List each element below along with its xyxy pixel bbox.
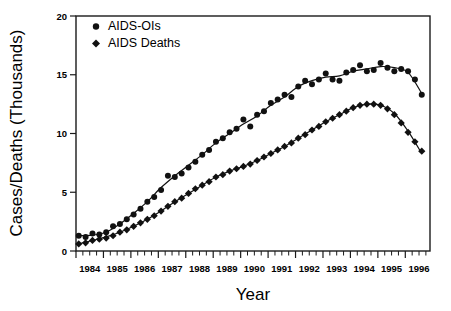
- data-point-circle: [302, 78, 308, 84]
- y-tick-label: 10: [56, 128, 67, 139]
- x-tick-label: 1989: [216, 263, 237, 274]
- x-tick-label: 1986: [134, 263, 155, 274]
- data-point-diamond: [267, 150, 274, 157]
- x-tick-label: 1985: [107, 263, 129, 274]
- data-point-circle: [391, 68, 397, 74]
- data-point-circle: [186, 165, 192, 171]
- data-point-circle: [323, 71, 329, 77]
- data-point-diamond: [89, 237, 96, 244]
- y-axis-ticks: [70, 16, 76, 251]
- data-point-circle: [83, 234, 89, 240]
- data-point-diamond: [219, 171, 226, 178]
- x-axis-minor-ticks: [76, 251, 426, 258]
- x-tick-label: 1984: [79, 263, 101, 274]
- data-point-diamond: [116, 229, 123, 236]
- data-point-circle: [288, 94, 294, 100]
- data-point-circle: [206, 147, 212, 153]
- data-point-diamond: [233, 165, 240, 172]
- data-point-circle: [240, 116, 246, 122]
- data-point-circle: [378, 60, 384, 66]
- x-tick-label: 1987: [161, 263, 182, 274]
- y-axis-tick-labels: 05101520: [56, 11, 67, 257]
- legend-marker-diamond: [92, 40, 100, 48]
- y-tick-label: 20: [56, 11, 67, 22]
- data-point-diamond: [254, 157, 261, 164]
- data-point-circle: [165, 173, 171, 179]
- data-point-circle: [227, 129, 233, 135]
- data-point-diamond: [411, 138, 418, 145]
- data-point-circle: [405, 68, 411, 74]
- x-tick-label: 1988: [189, 263, 210, 274]
- data-point-circle: [282, 92, 288, 98]
- y-tick-label: 15: [56, 69, 67, 80]
- data-point-diamond: [295, 135, 302, 142]
- trend-lines-layer: [79, 66, 422, 243]
- data-point-diamond: [356, 102, 363, 109]
- data-point-circle: [89, 230, 95, 236]
- series-aids-ois: [76, 60, 425, 240]
- data-point-diamond: [164, 203, 171, 210]
- data-point-diamond: [274, 146, 281, 153]
- data-point-diamond: [199, 182, 206, 189]
- data-point-circle: [371, 67, 377, 73]
- x-tick-label: 1990: [244, 263, 265, 274]
- data-point-circle: [151, 194, 157, 200]
- data-point-circle: [158, 187, 164, 193]
- data-point-diamond: [370, 101, 377, 108]
- data-points-layer: [75, 60, 425, 248]
- data-point-circle: [213, 139, 219, 145]
- data-point-diamond: [144, 216, 151, 223]
- x-tick-label: 1995: [381, 263, 403, 274]
- data-point-circle: [179, 170, 185, 176]
- data-point-circle: [124, 216, 130, 222]
- data-point-circle: [398, 66, 404, 72]
- data-point-diamond: [384, 105, 391, 112]
- data-point-diamond: [343, 108, 350, 115]
- data-point-diamond: [336, 111, 343, 118]
- data-point-diamond: [240, 163, 247, 170]
- AIDS-OIs-trend: [79, 66, 422, 235]
- data-point-circle: [137, 206, 143, 212]
- data-point-diamond: [377, 102, 384, 109]
- data-point-circle: [76, 233, 82, 239]
- data-point-diamond: [171, 198, 178, 205]
- data-point-diamond: [96, 236, 103, 243]
- data-point-circle: [412, 76, 418, 82]
- x-tick-label: 1992: [299, 263, 320, 274]
- series-aids-deaths: [75, 101, 425, 248]
- data-point-circle: [131, 212, 137, 218]
- data-point-diamond: [137, 219, 144, 226]
- data-point-diamond: [260, 153, 267, 160]
- data-point-circle: [172, 174, 178, 180]
- data-point-diamond: [391, 111, 398, 118]
- data-point-circle: [330, 76, 336, 82]
- plot-area-border: [76, 16, 430, 251]
- chart-container: 05101520 1984198519861987198819891990199…: [0, 0, 451, 311]
- data-point-circle: [343, 69, 349, 75]
- data-point-circle: [364, 68, 370, 74]
- data-point-circle: [268, 100, 274, 106]
- x-axis-tick-labels: 1984198519861987198819891990199119921993…: [79, 263, 429, 274]
- x-tick-label: 1993: [326, 263, 347, 274]
- data-point-circle: [144, 199, 150, 205]
- data-point-diamond: [363, 101, 370, 108]
- data-point-circle: [199, 152, 205, 158]
- legend-label: AIDS Deaths: [108, 36, 180, 50]
- data-point-diamond: [185, 190, 192, 197]
- data-point-diamond: [123, 226, 130, 233]
- data-point-diamond: [226, 168, 233, 175]
- data-point-circle: [110, 223, 116, 229]
- data-point-circle: [295, 84, 301, 90]
- data-point-circle: [384, 65, 390, 71]
- y-tick-label: 5: [62, 187, 68, 198]
- x-tick-label: 1996: [408, 263, 429, 274]
- legend-marker-circle: [93, 23, 99, 29]
- data-point-circle: [234, 126, 240, 132]
- data-point-circle: [357, 62, 363, 68]
- data-point-diamond: [322, 118, 329, 125]
- data-point-diamond: [247, 160, 254, 167]
- data-point-circle: [419, 92, 425, 98]
- legend-label: AIDS-OIs: [108, 19, 161, 33]
- data-point-diamond: [350, 104, 357, 111]
- aids-cases-deaths-scatter-chart: 05101520 1984198519861987198819891990199…: [0, 0, 451, 311]
